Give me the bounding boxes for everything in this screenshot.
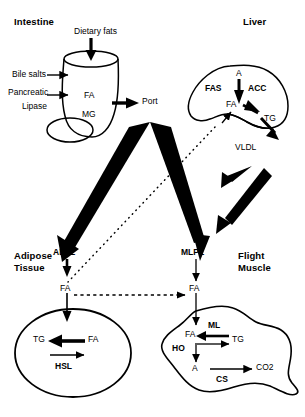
label-mlpl: MLPL [181, 248, 204, 257]
label-liver-acc: ACC [248, 84, 266, 93]
label-intestine-fa: FA [84, 91, 94, 100]
alpl-to-fa-arrow [63, 259, 72, 277]
label-liver-fa: FA [226, 100, 236, 109]
label-hsl: HSL [55, 362, 72, 371]
organ-title-liver: Liver [243, 17, 266, 27]
organ-title-muscle-line2: Muscle [238, 263, 271, 273]
label-dietary-fats: Dietary fats [74, 27, 117, 36]
label-muscle-fa-outer: FA [189, 284, 199, 293]
label-muscle-tg: TG [232, 335, 244, 344]
label-adipose-fa-outer: FA [60, 284, 70, 293]
label-muscle-fa-inner: FA [185, 330, 195, 339]
dietary-fats-arrow [86, 38, 97, 61]
intestine-shape [47, 51, 119, 142]
liver-fa-to-tg-arrow [243, 100, 260, 113]
label-lipase: Lipase [22, 102, 47, 111]
label-muscle-cs: CS [216, 375, 228, 384]
pathway-vector-layer [0, 0, 305, 417]
label-adipose-fa-inner: FA [88, 335, 98, 344]
label-liver-a: A [236, 69, 242, 78]
label-muscle-ho: HO [172, 344, 185, 353]
adipose-fa-entry-arrow [63, 293, 72, 322]
label-adipose-tg: TG [33, 335, 45, 344]
organ-title-adipose-line1: Adipose [14, 251, 52, 261]
adipose-fa-to-tg-arrow [48, 335, 85, 348]
label-alpl: ALPL [53, 248, 75, 257]
label-liver-tg: TG [264, 114, 276, 123]
muscle-fa-to-tg-arrow [196, 331, 229, 341]
label-muscle-ml: ML [208, 321, 220, 330]
adipose-cell-shape [15, 309, 131, 397]
label-vldl: VLDL [235, 143, 256, 152]
organ-title-muscle-line1: Flight [238, 251, 264, 261]
organ-title-intestine: Intestine [14, 17, 54, 27]
label-intestine-mg: MG [82, 110, 96, 119]
label-port: Port [142, 97, 158, 106]
label-liver-fas: FAS [205, 84, 222, 93]
label-muscle-a: A [192, 364, 198, 373]
portal-distribution-arrows [57, 122, 210, 262]
lipid-metabolism-diagram: Intestine Liver Dietary fats Bile salts … [0, 0, 305, 417]
label-pancreatic: Pancreatic [8, 88, 48, 97]
label-bile-salts: Bile salts [12, 70, 46, 79]
organ-title-adipose-line2: Tissue [14, 263, 45, 273]
label-muscle-co2: CO2 [256, 363, 273, 372]
